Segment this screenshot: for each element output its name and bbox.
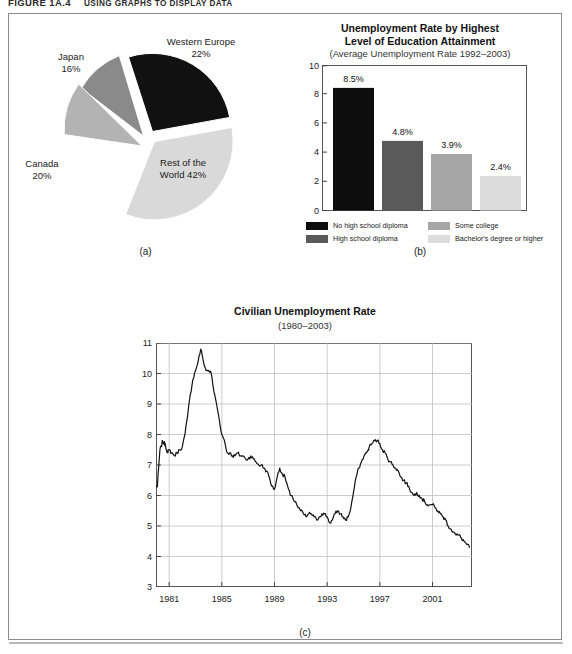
bar-some-college [431,154,472,211]
legend-swatch-bachelors-or-higher [428,235,450,243]
legend-item-high-school-diploma: High school diploma [306,234,428,243]
pie-label-japan: Japan 16% [40,51,102,74]
line-plot-area: 34567891011 198119851989199319972001 [156,343,472,587]
bar-chart-title-line2: Level of Education Attainment [282,35,558,48]
legend-label-high-school-diploma: High school diploma [333,234,398,243]
legend-item-bachelors-or-higher: Bachelor's degree or higher [428,234,543,243]
bar-ytick-8: 8 [314,89,319,99]
bar-chart-subtitle: (Average Unemployment Rate 1992–2003) [282,48,558,59]
panel-a-caption: (a) [18,246,273,257]
bar-high-school-diploma [382,141,423,211]
panel-c-line-chart: Civilian Unemployment Rate (1980–2003) 3… [120,305,490,630]
line-ytick-9: 9 [147,399,152,409]
bar-ytick-6: 6 [314,118,319,128]
pie-label-western-europe: Western Europe 22% [146,36,256,59]
line-ytick-11: 11 [143,338,152,348]
figure-head-title: Using Graphs to Display Data [84,0,233,8]
pie-label-rest-of-world-value: World 42% [144,169,222,181]
line-chart-title: Civilian Unemployment Rate [120,305,490,317]
pie-label-japan-value: 16% [40,63,102,75]
legend-item-some-college: Some college [428,221,499,230]
figure-running-head: Figure 1A.4 Using Graphs to Display Data [8,0,233,8]
line-ytick-6: 6 [147,491,152,501]
line-ytick-8: 8 [147,430,152,440]
line-ytick-3: 3 [147,582,152,592]
bar-plot-svg [322,65,527,211]
bar-value-label-3: 2.4% [480,162,521,172]
pie-label-japan-name: Japan [40,51,102,63]
line-ytick-5: 5 [147,521,152,531]
bar-plot-area: 0 2 4 6 8 10 8.5% 4.8% 3.9% 2.4% [322,65,527,211]
legend-label-no-high-school-diploma: No high school diploma [333,221,408,230]
line-xtick-1985: 1985 [212,594,232,604]
bar-value-label-1: 4.8% [382,127,423,137]
bar-bachelors-or-higher [480,176,521,211]
legend-label-bachelors-or-higher: Bachelor's degree or higher [455,234,543,243]
figure-head-label: Figure 1A.4 [8,0,71,8]
pie-label-canada: Canada 20% [8,158,76,181]
legend-label-some-college: Some college [455,221,499,230]
line-chart-subtitle: (1980–2003) [120,320,490,331]
legend-row-1: No high school diploma Some college [306,221,556,230]
legend-item-no-high-school-diploma: No high school diploma [306,221,428,230]
pie-slice-western-europe [129,53,230,131]
bar-chart-title: Unemployment Rate by Highest Level of Ed… [282,22,558,47]
legend-swatch-no-high-school-diploma [306,222,328,230]
line-xtick-1993: 1993 [317,594,337,604]
line-xtick-1997: 1997 [370,594,390,604]
bar-chart-title-line1: Unemployment Rate by Highest [282,22,558,35]
line-ytick-10: 10 [142,369,152,379]
bar-ytick-0: 0 [314,206,319,216]
bar-ytick-4: 4 [314,147,319,157]
line-plot-svg [156,343,472,587]
bar-value-label-2: 3.9% [431,140,472,150]
pie-label-western-europe-name: Western Europe [146,36,256,48]
pie-label-rest-of-world-name: Rest of the [144,157,222,169]
pie-label-rest-of-world: Rest of the World 42% [144,157,222,180]
bar-value-label-0: 8.5% [333,74,374,84]
bar-ytick-2: 2 [314,176,319,186]
line-ytick-4: 4 [147,552,152,562]
panel-b-caption: (b) [282,246,558,257]
line-xtick-1981: 1981 [159,594,179,604]
pie-label-western-europe-value: 22% [146,48,256,60]
line-ytick-7: 7 [147,460,152,470]
panel-a-pie-chart: Western Europe 22% Rest of the World 42%… [18,18,273,268]
line-xtick-2001: 2001 [422,594,442,604]
bar-chart-legend: No high school diploma Some college High… [306,221,556,247]
bar-no-high-school-diploma [333,88,374,211]
pie-label-canada-name: Canada [8,158,76,170]
pie-label-canada-value: 20% [8,170,76,182]
bar-ytick-10: 10 [309,61,319,71]
line-xtick-1989: 1989 [264,594,284,604]
legend-swatch-high-school-diploma [306,235,328,243]
panel-b-bar-chart: Unemployment Rate by Highest Level of Ed… [282,18,558,268]
panel-c-caption: (c) [120,627,490,638]
figure-frame-shadow [9,642,563,644]
legend-swatch-some-college [428,222,450,230]
legend-row-2: High school diploma Bachelor's degree or… [306,234,556,243]
